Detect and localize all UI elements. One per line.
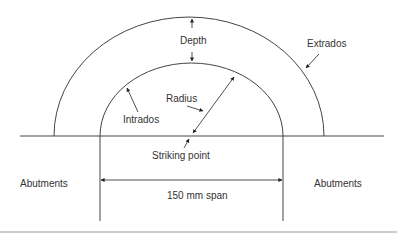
extrados-pointer [306, 54, 319, 68]
depth-label: Depth [180, 36, 207, 46]
striking-point-pointer [184, 139, 189, 148]
span-label: 150 mm span [167, 191, 228, 201]
intrados-pointer [127, 88, 138, 112]
abutments-right-label: Abutments [314, 179, 362, 189]
radius-label: Radius [166, 94, 197, 104]
striking-point-label: Striking point [152, 151, 210, 161]
radius-arrow [193, 77, 234, 133]
intrados-label: Intrados [123, 115, 159, 125]
abutments-left-label: Abutments [20, 179, 68, 189]
radius-pointer [187, 106, 203, 111]
extrados-label: Extrados [307, 39, 346, 49]
